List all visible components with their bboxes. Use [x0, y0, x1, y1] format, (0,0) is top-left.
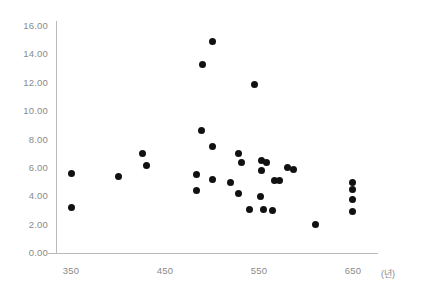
data-point	[143, 162, 150, 169]
data-point	[199, 61, 206, 68]
x-axis-tick-label: 550	[239, 266, 279, 276]
data-point	[238, 159, 245, 166]
y-axis-line	[56, 21, 57, 254]
data-point	[115, 173, 122, 180]
x-axis-unit-label: (년)	[381, 267, 395, 280]
scatter-chart: 0.002.004.006.008.0010.0012.0014.0016.00…	[0, 0, 427, 302]
data-point	[263, 159, 270, 166]
y-axis-tick-label: 2.00	[0, 220, 48, 230]
data-point	[209, 38, 216, 45]
y-axis-tick-label: 10.00	[0, 106, 48, 116]
data-point	[193, 171, 200, 178]
data-point	[349, 179, 356, 186]
data-point	[312, 221, 319, 228]
data-point	[235, 150, 242, 157]
data-point	[198, 127, 205, 134]
x-axis-tick-label: 650	[333, 266, 373, 276]
data-point	[349, 196, 356, 203]
data-point	[68, 170, 75, 177]
data-point	[193, 187, 200, 194]
data-point	[260, 206, 267, 213]
y-axis-tick-label: 6.00	[0, 163, 48, 173]
data-point	[276, 177, 283, 184]
data-point	[209, 143, 216, 150]
x-axis-tick-label: 450	[145, 266, 185, 276]
data-point	[227, 179, 234, 186]
data-point	[68, 204, 75, 211]
x-axis-tick-label: 350	[51, 266, 91, 276]
data-point	[258, 167, 265, 174]
data-point	[257, 193, 264, 200]
plot-area: 0.002.004.006.008.0010.0012.0014.0016.00…	[0, 0, 427, 302]
y-axis-tick-label: 0.00	[0, 248, 48, 258]
x-axis-line	[48, 253, 378, 254]
y-axis-tick-label: 14.00	[0, 49, 48, 59]
data-point	[251, 81, 258, 88]
y-axis-tick-label: 16.00	[0, 21, 48, 31]
data-point	[246, 206, 253, 213]
data-point	[269, 207, 276, 214]
data-point	[139, 150, 146, 157]
data-point	[209, 176, 216, 183]
data-point	[349, 208, 356, 215]
y-axis-tick-label: 12.00	[0, 78, 48, 88]
y-axis-tick-label: 8.00	[0, 135, 48, 145]
data-point	[349, 186, 356, 193]
data-point	[235, 190, 242, 197]
y-axis-tick-label: 4.00	[0, 191, 48, 201]
data-point	[290, 166, 297, 173]
